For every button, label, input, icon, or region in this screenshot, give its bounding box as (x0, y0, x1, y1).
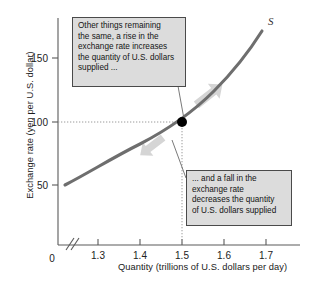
y-tick-label-50: 50 (37, 180, 49, 191)
x-tick-label-1-7: 1.7 (259, 250, 273, 261)
y-axis-ticks (52, 58, 58, 185)
y-axis-title: Exchange rate (yen per U.S. dollar) (25, 40, 35, 210)
leader-line-fall (172, 140, 186, 178)
x-axis-break-icon (66, 238, 79, 250)
fall-callout-line-2: exchange rate (192, 185, 287, 196)
x-tick-label-1-6: 1.6 (217, 250, 231, 261)
fall-callout: ... and a fall in the exchange rate decr… (186, 170, 292, 226)
leader-line-rise (178, 86, 184, 119)
fall-callout-line-1: ... and a fall in the (192, 174, 287, 185)
exchange-rate-supply-chart: 150 100 50 0 1.3 1.4 1.5 1.6 1.7 S (0, 0, 316, 281)
arrow-down-left-icon (135, 131, 168, 162)
x-tick-label-1-5: 1.5 (175, 250, 189, 261)
rise-callout: Other things remaining the same, a rise … (72, 17, 186, 87)
rise-callout-line-3: exchange rate increases (78, 42, 181, 53)
x-tick-label-1-4: 1.4 (133, 250, 147, 261)
fall-callout-line-3: decreases the quantity (192, 195, 287, 206)
fall-callout-line-4: of U.S. dollars supplied (192, 206, 287, 217)
supply-curve-label: S (268, 15, 274, 27)
x-tick-label-1-3: 1.3 (91, 250, 105, 261)
equilibrium-point (177, 117, 187, 127)
origin-label: 0 (49, 253, 55, 264)
rise-callout-line-5: supplied ... (78, 63, 181, 74)
rise-callout-line-4: the quantity of U.S. dollars (78, 53, 181, 64)
rise-callout-line-1: Other things remaining (78, 21, 181, 32)
x-axis-title: Quantity (trillions of U.S. dollars per … (118, 262, 287, 272)
rise-callout-line-2: the same, a rise in the (78, 32, 181, 43)
